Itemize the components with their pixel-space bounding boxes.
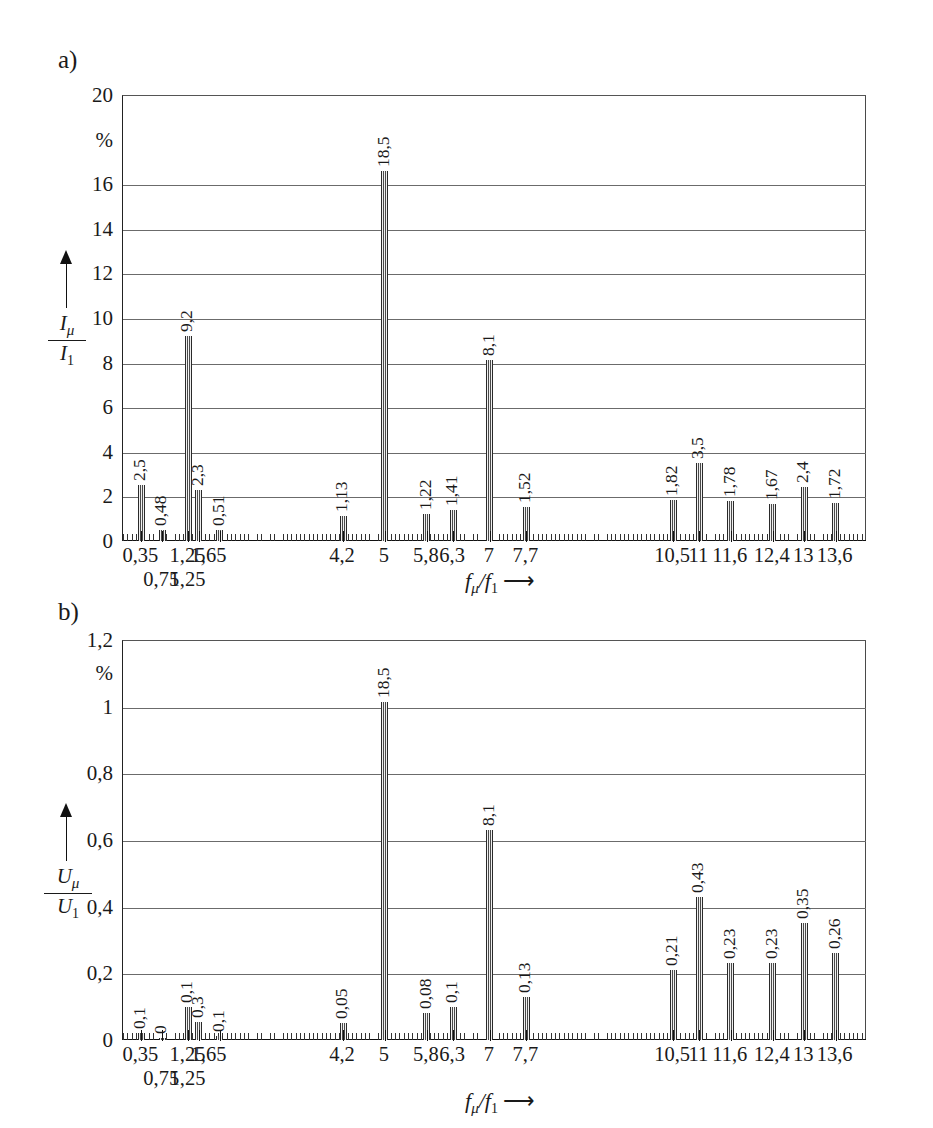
x-axis-major-tick <box>526 1030 527 1041</box>
y-tick-label-text: 0,4 <box>87 896 113 917</box>
y-tick-label-text: 14 <box>92 218 113 239</box>
bar <box>696 897 703 1040</box>
x-tick-label: 6,3 <box>439 545 465 566</box>
y-tick-label-text: 1 <box>103 696 114 717</box>
x-tick-label: 7 <box>484 545 494 566</box>
x-axis-major-tick <box>427 531 428 542</box>
y-axis-num-sub-a: μ <box>67 322 75 338</box>
x-tick-label: 12,4 <box>754 1044 790 1065</box>
y-tick-label-text: 0,8 <box>87 763 113 784</box>
y-axis-title-a: Iμ I1 <box>48 312 86 369</box>
x-axis-major-tick <box>199 531 200 542</box>
bar-value-label: 2,3 <box>189 464 207 486</box>
x-tick-label: 11 <box>688 1044 708 1065</box>
y-axis-den-b: U <box>57 894 72 918</box>
bar-value-label: 1,52 <box>516 472 534 503</box>
x-axis-major-tick <box>162 531 163 542</box>
y-tick-label-text: 0,6 <box>87 830 113 851</box>
x-axis-major-tick <box>188 531 189 542</box>
plot-area-b <box>122 640 866 1040</box>
bar-value-label: 3,5 <box>689 437 707 459</box>
x-axis-major-tick <box>804 531 805 542</box>
x-axis-minor-ticks-b <box>123 1033 866 1040</box>
x-tick-label: 5,8 <box>413 1044 439 1065</box>
x-tick-label: 6,3 <box>439 1044 465 1065</box>
y-tick-label-text: % <box>96 663 114 684</box>
y-tick-label-text: 6 <box>103 397 114 418</box>
x-tick-label: 7,7 <box>513 1044 539 1065</box>
x-axis-major-tick <box>385 531 386 542</box>
y-axis-den-sub-a: 1 <box>67 353 74 368</box>
x-axis-major-tick <box>385 1030 386 1041</box>
bar <box>769 963 776 1040</box>
bar-value-label: 0,1 <box>131 1007 149 1029</box>
x-tick-label: 1,65 <box>191 545 227 566</box>
bar <box>185 336 192 541</box>
y-axis-num-b: U <box>57 864 72 888</box>
y-tick-label-text: 0 <box>103 531 114 552</box>
gridline <box>123 974 866 975</box>
y-axis-num-sub-b: μ <box>72 875 80 891</box>
x-tick-label: 12,4 <box>754 545 790 566</box>
bar <box>801 923 808 1040</box>
bar-value-label: 2,4 <box>794 462 812 484</box>
bar-value-label: 0,26 <box>826 919 844 950</box>
x-axis-major-tick <box>699 531 700 542</box>
gridline <box>123 185 866 186</box>
x-axis-major-tick <box>673 1030 674 1041</box>
bar-value-label: 8,1 <box>480 334 498 356</box>
gridline <box>123 774 866 775</box>
gridline <box>123 274 866 275</box>
x-axis-major-tick <box>699 1030 700 1041</box>
x-tick-label: 10,5 <box>654 1044 690 1065</box>
x-axis-major-tick <box>804 1030 805 1041</box>
y-tick-label-text: % <box>96 129 114 150</box>
x-tick-label: 13,6 <box>817 545 853 566</box>
bar-value-label: 0,21 <box>663 935 681 966</box>
bar-value-label: 9,2 <box>178 310 196 332</box>
bar-value-label: 1,78 <box>721 467 739 498</box>
plot-area-a <box>122 95 866 541</box>
x-axis-major-tick <box>188 1030 189 1041</box>
y-axis-title-b: Uμ U1 <box>44 865 92 922</box>
y-tick-label-text: 1,2 <box>87 630 113 651</box>
gridline <box>123 841 866 842</box>
x-tick-label: 11,6 <box>712 545 747 566</box>
y-tick-label-text: 2 <box>103 486 114 507</box>
bar-value-label: 18,5 <box>375 667 393 698</box>
x-tick-label: 11,6 <box>712 1044 747 1065</box>
x-axis-major-tick <box>453 1030 454 1041</box>
panel-a: a) Iμ I1 0246810121416%20 0,351,251,654,… <box>0 0 933 590</box>
x-axis-major-tick <box>220 531 221 542</box>
y-tick-label-text: 20 <box>92 85 113 106</box>
x-axis-major-tick <box>453 531 454 542</box>
x-tick-label-secondary: 1,25 <box>170 569 206 590</box>
x-axis-major-tick <box>343 531 344 542</box>
x-axis-major-tick <box>199 1030 200 1041</box>
x-axis-major-tick <box>490 531 491 542</box>
bar <box>381 171 388 541</box>
bar-value-label: 0,35 <box>794 889 812 920</box>
x-tick-label: 4,2 <box>329 1044 355 1065</box>
x-axis-major-tick <box>673 531 674 542</box>
x-tick-label: 13 <box>793 545 814 566</box>
x-tick-label: 5,8 <box>413 545 439 566</box>
x-tick-label: 13 <box>793 1044 814 1065</box>
x-tick-label: 5 <box>379 1044 389 1065</box>
x-axis-minor-ticks-a <box>123 534 866 541</box>
bar-value-label: 0,23 <box>763 929 781 960</box>
bar-value-label: 0,3 <box>189 996 207 1018</box>
x-tick-label: 5 <box>379 545 389 566</box>
gridline <box>123 453 866 454</box>
bar-value-label: 1,22 <box>417 479 435 510</box>
bar-value-label: 0,48 <box>152 496 170 527</box>
bar-value-label: 1,67 <box>763 469 781 500</box>
bar-value-label: 0,05 <box>333 989 351 1020</box>
bar-value-label: 0,43 <box>689 862 707 893</box>
x-tick-label: 0,35 <box>122 1044 158 1065</box>
x-axis-major-tick <box>141 531 142 542</box>
y-axis-num-a: I <box>60 311 67 335</box>
gridline <box>123 497 866 498</box>
bar-value-label: 0,08 <box>417 979 435 1010</box>
x-axis-major-tick <box>343 1030 344 1041</box>
